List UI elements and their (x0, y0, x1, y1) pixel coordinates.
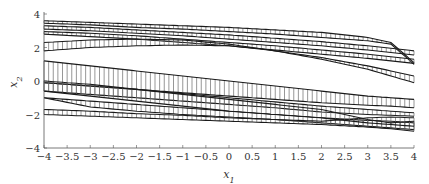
interval-enclosure-chart: −4−3.5−3−2.5−2−1.5−1−0.500.511.522.533.5… (0, 0, 429, 184)
y-tick-label: 0 (34, 76, 40, 87)
x-tick-label: −1.5 (147, 151, 171, 162)
x-tick-label: −1 (175, 151, 190, 162)
y-tick-label: 4 (34, 9, 40, 20)
x-tick-label: −2.5 (101, 151, 125, 162)
x-tick-label: −0.5 (194, 151, 218, 162)
y-tick-label: −2 (25, 110, 40, 121)
x-tick-label: 1 (272, 151, 278, 162)
x-tick-label: 0 (226, 151, 232, 162)
y-tick-label: −4 (25, 143, 40, 154)
x-tick-label: −3 (83, 151, 98, 162)
x-axis-label: x1 (223, 168, 234, 184)
x-tick-label: 2.5 (337, 151, 353, 162)
x-tick-label: −3.5 (55, 151, 79, 162)
x-tick-label: 0.5 (244, 151, 260, 162)
y-axis-label: x2 (7, 76, 24, 87)
y-tick-label: 2 (34, 43, 40, 54)
x-tick-label: 2 (318, 151, 324, 162)
enclosure-bands (44, 21, 414, 132)
x-axis-ticks: −4−3.5−3−2.5−2−1.5−1−0.500.511.522.533.5… (37, 145, 418, 162)
x-tick-label: 4 (411, 151, 417, 162)
x-tick-label: 3 (365, 151, 371, 162)
x-tick-label: −2 (129, 151, 144, 162)
x-tick-label: 3.5 (383, 151, 399, 162)
x-tick-label: 1.5 (290, 151, 306, 162)
